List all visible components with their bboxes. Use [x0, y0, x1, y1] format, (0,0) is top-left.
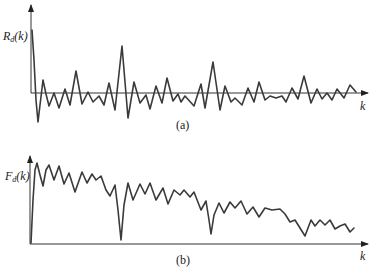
trace-fd: [31, 163, 354, 243]
figure-canvas: Rd(k) k (a) Fd(k) k (b): [0, 0, 374, 273]
panel-b: Fd(k) k (b): [4, 156, 368, 267]
caption-a: (a): [176, 118, 189, 132]
xlabel-a: k: [360, 99, 366, 113]
ylabel-b: Fd(k): [4, 169, 30, 184]
ylabel-a: Rd(k): [2, 29, 28, 44]
caption-b: (b): [176, 253, 190, 267]
panel-a: Rd(k) k (a): [2, 5, 368, 132]
trace-rd: [32, 30, 356, 122]
xlabel-b: k: [360, 249, 366, 263]
